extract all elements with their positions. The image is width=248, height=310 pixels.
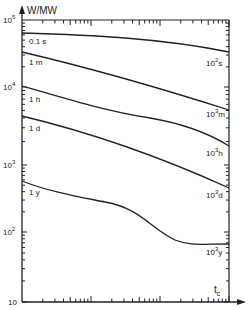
curve-1h: [22, 86, 229, 146]
curve-label-start: 1 h: [29, 95, 40, 104]
curve-label-end: 103m: [206, 108, 225, 119]
curve-start-labels: 0.1 s 1 m 1 h 1 d 1 y: [29, 37, 46, 197]
y-tick-labels: 105 104 103 102 10: [3, 14, 17, 307]
decay-heat-chart: 105 104 103 102 10 W/MW tc 0.1 s 1 m 1 h…: [0, 0, 248, 310]
curve-label-end: 103y: [206, 246, 222, 257]
curves: [22, 33, 229, 244]
y-tick-label: 10: [8, 298, 17, 307]
y-tick-label: 103: [3, 159, 16, 170]
curve-label-start: 1 m: [29, 58, 43, 67]
curve-1m: [22, 52, 229, 110]
curve-label-start: 0.1 s: [29, 37, 46, 46]
y-tick-label: 105: [3, 14, 16, 25]
y-ticks: [22, 23, 229, 302]
curve-end-labels: 102s 103m 103h 103d 103y: [206, 57, 225, 257]
y-axis-title: W/MW: [27, 5, 58, 16]
curve-label-end: 103h: [206, 147, 223, 158]
curve-label-end: 103d: [206, 189, 223, 200]
curve-label-end: 102s: [206, 57, 222, 68]
y-tick-label: 102: [3, 226, 16, 237]
curve-1d: [22, 116, 229, 188]
y-axis: [19, 5, 25, 302]
x-axis-title: tc: [214, 284, 221, 297]
x-ticks: [43, 20, 229, 302]
plot-frame: [22, 20, 229, 302]
x-axis-arrow-icon: [237, 299, 246, 305]
curve-1y: [22, 181, 229, 244]
y-tick-label: 104: [3, 81, 16, 92]
x-axis: [22, 299, 246, 305]
curve-label-start: 1 y: [29, 188, 40, 197]
curve-label-start: 1 d: [29, 124, 40, 133]
curve-0-1s: [22, 33, 229, 52]
y-axis-arrow-icon: [19, 5, 25, 14]
